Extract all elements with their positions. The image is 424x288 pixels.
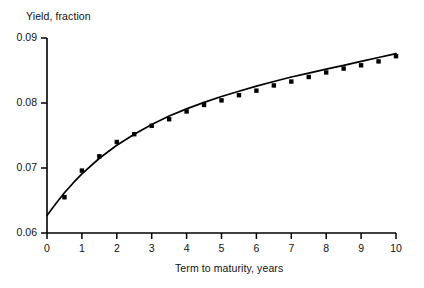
x-axis-ticks (47, 233, 396, 239)
data-point-marker (80, 168, 84, 172)
data-point-marker (307, 75, 311, 79)
y-axis-ticks (41, 38, 47, 233)
y-tick-label: 0.06 (3, 226, 37, 238)
y-tick-label: 0.08 (3, 96, 37, 108)
x-tick-label: 5 (212, 242, 232, 254)
data-point-marker (115, 140, 119, 144)
data-point-marker (289, 79, 293, 83)
data-point-marker (394, 54, 398, 58)
data-point-marker (202, 103, 206, 107)
data-point-marker (254, 88, 258, 92)
data-point-marker (376, 59, 380, 63)
x-tick-label: 1 (72, 242, 92, 254)
data-point-marker (359, 63, 363, 67)
data-point-marker (341, 66, 345, 70)
data-point-marker (237, 93, 241, 97)
x-tick-label: 2 (107, 242, 127, 254)
y-tick-label: 0.09 (3, 31, 37, 43)
x-axis-title: Term to maturity, years (175, 262, 283, 274)
data-point-marker (184, 109, 188, 113)
x-tick-label: 3 (142, 242, 162, 254)
x-tick-label: 6 (246, 242, 266, 254)
yield-curve-figure: Yield, fraction Term to maturity, years … (0, 0, 424, 288)
x-tick-label: 9 (351, 242, 371, 254)
x-tick-label: 10 (386, 242, 406, 254)
x-tick-label: 0 (37, 242, 57, 254)
x-tick-label: 4 (177, 242, 197, 254)
y-tick-label: 0.07 (3, 161, 37, 173)
data-point-markers (62, 54, 398, 199)
data-point-marker (324, 70, 328, 74)
x-tick-label: 7 (281, 242, 301, 254)
data-point-marker (62, 195, 66, 199)
data-point-marker (132, 132, 136, 136)
data-point-marker (272, 83, 276, 87)
fitted-curve (47, 54, 396, 216)
data-point-marker (150, 124, 154, 128)
data-point-marker (167, 117, 171, 121)
x-tick-label: 8 (316, 242, 336, 254)
data-point-marker (219, 98, 223, 102)
data-point-marker (97, 154, 101, 158)
